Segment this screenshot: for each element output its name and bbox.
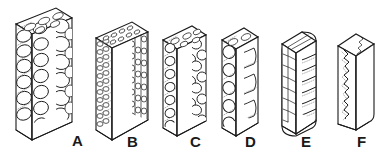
specimen-f	[338, 33, 374, 131]
cellular-solids-figure: .ink{fill:none;stroke:#1a1a1a;stroke-wid…	[0, 0, 392, 155]
specimen-label-f: F	[357, 134, 366, 149]
specimen-d	[221, 28, 258, 136]
specimen-label-e: E	[301, 134, 311, 149]
specimen-e	[282, 32, 316, 136]
specimen-drawings: .ink{fill:none;stroke:#1a1a1a;stroke-wid…	[0, 0, 392, 155]
specimen-label-a: A	[72, 133, 83, 148]
specimen-a	[15, 8, 76, 140]
specimen-label-c: C	[190, 134, 201, 149]
specimen-label-d: D	[245, 134, 256, 149]
specimen-c	[163, 26, 208, 136]
specimen-label-b: B	[127, 134, 138, 149]
specimen-b	[96, 22, 148, 140]
